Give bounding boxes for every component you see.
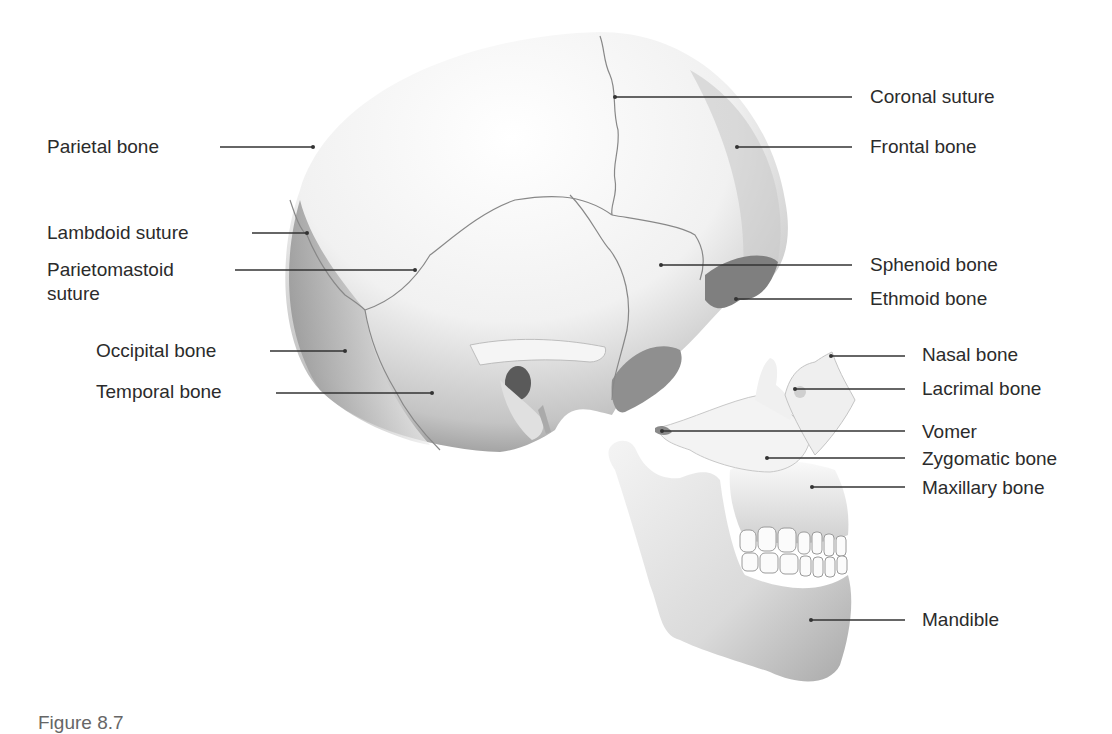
upper-tooth [836,536,846,556]
lower-tooth [813,557,823,577]
lower-tooth [742,553,758,571]
cranium [285,32,788,452]
upper-tooth [758,527,776,551]
label-lambdoid-suture: Lambdoid suture [47,221,189,245]
label-vomer: Vomer [922,420,977,444]
leader-dot-vomer [660,429,664,433]
label-coronal-suture: Coronal suture [870,85,995,109]
teeth [740,527,847,577]
leader-dot-ethmoid-bone [734,297,738,301]
figure-caption: Figure 8.7 [38,712,124,734]
label-parietomastoid-line2: suture [47,282,174,306]
label-zygomatic-bone: Zygomatic bone [922,447,1057,471]
lower-tooth [760,553,778,573]
upper-tooth [812,532,822,554]
label-maxillary-bone: Maxillary bone [922,476,1045,500]
label-ethmoid-bone: Ethmoid bone [870,287,987,311]
upper-tooth [778,528,796,552]
leader-dot-zygomatic-bone [765,456,769,460]
label-occipital-bone: Occipital bone [96,339,216,363]
leader-dot-lambdoid-suture [305,231,309,235]
upper-tooth [824,534,834,556]
leader-dot-coronal-suture [613,95,617,99]
lower-tooth [780,554,798,574]
upper-tooth [798,532,810,554]
label-temporal-bone: Temporal bone [96,380,222,404]
leader-dot-nasal-bone [829,354,833,358]
leader-dot-parietal-bone [311,145,315,149]
upper-tooth [740,530,756,552]
leader-dot-temporal-bone [430,391,434,395]
leader-dot-lacrimal-bone [793,387,797,391]
label-frontal-bone: Frontal bone [870,135,977,159]
label-nasal-bone: Nasal bone [922,343,1018,367]
leader-dot-occipital-bone [343,349,347,353]
leader-dot-maxillary-bone [810,485,814,489]
label-mandible: Mandible [922,608,999,632]
leader-dot-sphenoid-bone [659,263,663,267]
label-parietal-bone: Parietal bone [47,135,159,159]
label-parietomastoid-suture: Parietomastoid suture [47,258,174,306]
leader-dot-frontal-bone [735,145,739,149]
lower-tooth [800,556,811,576]
label-parietomastoid-line1: Parietomastoid [47,258,174,282]
label-lacrimal-bone: Lacrimal bone [922,377,1041,401]
lower-tooth [825,557,835,577]
leader-dot-mandible [809,618,813,622]
lower-tooth [837,556,847,574]
label-sphenoid-bone: Sphenoid bone [870,253,998,277]
leader-dot-parietomastoid-suture [413,268,417,272]
